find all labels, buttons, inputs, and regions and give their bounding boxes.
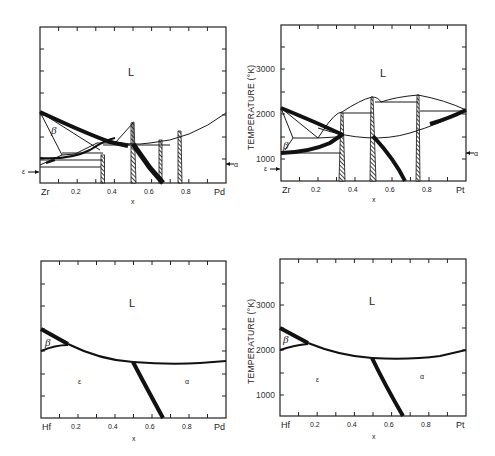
phase-label-beta: β xyxy=(282,333,289,345)
phase-label-epsilon: ε xyxy=(78,378,81,385)
y-axis-label: TEMPERATURE (°K) xyxy=(246,299,256,385)
phase-label-liquid: L xyxy=(369,295,375,307)
phase-label-alpha: α xyxy=(420,373,424,380)
panel-hf-pd: L β ε α Hf 0.2 0.4 0.6 0.8 Pd x xyxy=(41,261,226,442)
x-tick-label: 0.2 xyxy=(310,421,320,428)
panel-hf-pt: L β ε α 3000 2000 1000 TEMPERATURE (°K) … xyxy=(246,259,466,440)
calculated-phase-lines xyxy=(280,328,466,416)
alpha-arrow-marker: α xyxy=(466,150,478,157)
x-endpoint-left: Hf xyxy=(281,420,290,430)
phase-label-liquid: L xyxy=(380,67,386,79)
x-tick-label: 0.4 xyxy=(108,423,118,430)
x-axis-label: x xyxy=(131,198,135,205)
x-axis-label: x xyxy=(132,435,136,442)
svg-text:α: α xyxy=(474,150,478,157)
x-endpoint-left: Zr xyxy=(41,187,50,197)
x-ticks-bottom xyxy=(60,414,208,418)
x-tick-label: 0.4 xyxy=(347,421,357,428)
x-endpoint-right: Pt xyxy=(456,185,465,195)
x-tick-label: 0.4 xyxy=(348,186,358,193)
phase-label-beta: β xyxy=(282,139,289,151)
y-tick-label: 3000 xyxy=(256,300,275,310)
x-ticks-top xyxy=(299,259,448,263)
y-axis-label: TEMPERATURE (°K) xyxy=(246,65,256,151)
phase-label-epsilon: ε xyxy=(316,376,319,383)
x-tick-label: 0.8 xyxy=(182,423,192,430)
plot-frame xyxy=(41,261,226,418)
epsilon-arrow-marker: ε xyxy=(22,168,39,175)
svg-text:ε: ε xyxy=(22,168,25,175)
alpha-arrow-marker: α xyxy=(226,161,238,168)
x-endpoint-right: Pt xyxy=(456,420,465,430)
svg-text:ε: ε xyxy=(264,165,267,172)
x-tick-label: 0.2 xyxy=(71,423,81,430)
x-endpoint-right: Pd xyxy=(214,422,225,432)
phase-label-alpha: α xyxy=(185,378,189,385)
x-tick-label: 0.2 xyxy=(311,186,321,193)
x-endpoint-left: Zr xyxy=(282,185,291,195)
x-axis-label: x xyxy=(372,196,376,203)
calculated-phase-lines xyxy=(41,329,226,418)
x-tick-label: 0.8 xyxy=(422,186,432,193)
x-tick-label: 0.8 xyxy=(181,188,191,195)
x-endpoint-left: Hf xyxy=(42,422,51,432)
y-tick-label: 3000 xyxy=(256,64,275,74)
epsilon-arrow-marker: ε xyxy=(264,165,280,172)
x-ticks-bottom xyxy=(299,412,448,416)
x-tick-label: 0.6 xyxy=(385,186,395,193)
x-endpoint-right: Pd xyxy=(214,187,225,197)
x-tick-label: 0.2 xyxy=(71,188,81,195)
y-tick-label: 2000 xyxy=(256,109,275,119)
x-ticks-top xyxy=(60,261,208,265)
svg-text:α: α xyxy=(234,161,238,168)
x-tick-label: 0.6 xyxy=(144,188,154,195)
plot-frame xyxy=(280,259,466,416)
phase-diagram-figure: L β ε α Zr 0.2 0.4 0.6 0.8 Pd x xyxy=(0,0,495,456)
x-tick-label: 0.8 xyxy=(421,421,431,428)
y-tick-label: 1000 xyxy=(256,154,275,164)
phase-label-beta: β xyxy=(50,124,57,136)
x-tick-label: 0.6 xyxy=(384,421,394,428)
y-tick-label: 2000 xyxy=(256,345,275,355)
y-tick-label: 1000 xyxy=(256,390,275,400)
panel-zr-pd: L β ε α Zr 0.2 0.4 0.6 0.8 Pd x xyxy=(22,27,238,205)
phase-label-liquid: L xyxy=(128,66,134,78)
phase-label-beta: β xyxy=(44,336,51,348)
panel-zr-pt: L β ε α 3000 2000 1000 TEMPERATURE (°K) … xyxy=(246,25,478,203)
x-tick-label: 0.4 xyxy=(107,188,117,195)
x-tick-label: 0.6 xyxy=(145,423,155,430)
x-axis-label: x xyxy=(372,433,376,440)
phase-label-liquid: L xyxy=(129,297,135,309)
